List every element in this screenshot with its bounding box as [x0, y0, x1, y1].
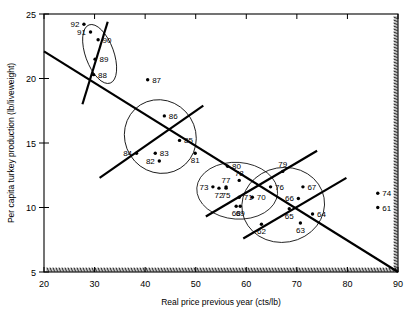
data-point-label: 83	[160, 149, 169, 158]
x-tick-label: 80	[342, 279, 352, 289]
data-point-label: 76	[275, 183, 284, 192]
axis-hatch-band-right	[394, 16, 399, 271]
y-tick-label: 10	[26, 203, 36, 213]
data-point	[376, 206, 379, 209]
data-point-label: 61	[382, 204, 391, 213]
data-point	[376, 192, 379, 195]
data-point	[154, 152, 157, 155]
data-point	[89, 30, 92, 33]
data-point	[163, 114, 166, 117]
data-point	[288, 207, 291, 210]
y-axis-tick-labels: 510152025	[26, 10, 36, 278]
data-point	[301, 185, 304, 188]
data-point	[297, 197, 300, 200]
data-point-label: 62	[257, 227, 266, 236]
y-axis-title: Per capita turkey production (lb/livewei…	[6, 63, 16, 223]
data-point-label: 65	[285, 212, 294, 221]
data-point-label: 74	[382, 189, 391, 198]
data-point-labels: 9291908988878685848382818079787776737275…	[71, 20, 392, 236]
data-point-label: 63	[296, 226, 305, 235]
data-point-label: 85	[184, 136, 193, 145]
data-point-label: 71	[244, 193, 253, 202]
data-point	[178, 139, 181, 142]
data-point	[224, 186, 227, 189]
x-tick-label: 20	[39, 279, 49, 289]
data-point-label: 79	[278, 160, 287, 169]
y-tick-label: 15	[26, 139, 36, 149]
y-tick-label: 5	[31, 268, 36, 278]
data-point	[260, 223, 263, 226]
data-point-label: 67	[307, 183, 316, 192]
data-point-label: 91	[77, 28, 86, 37]
axis-hatch-band	[46, 268, 397, 273]
y-tick-label: 25	[26, 10, 36, 20]
x-tick-label: 70	[292, 279, 302, 289]
data-point	[93, 57, 96, 60]
trend-lines	[44, 22, 398, 272]
data-point-label: 82	[146, 157, 155, 166]
data-point	[269, 185, 272, 188]
cluster-1960s	[236, 161, 331, 249]
data-point	[217, 186, 220, 189]
data-point	[299, 221, 302, 224]
data-point	[239, 205, 242, 208]
data-points	[82, 23, 379, 226]
data-point	[82, 23, 85, 26]
data-point	[234, 205, 237, 208]
data-point-label: 90	[103, 36, 112, 45]
data-point	[281, 170, 284, 173]
x-tick-label: 60	[241, 279, 251, 289]
x-axis-tick-labels: 2030405060708090	[39, 279, 403, 289]
data-point	[158, 159, 161, 162]
data-point-label: 87	[152, 76, 161, 85]
scatter-chart-figure: 2030405060708090 510152025 9291908988878…	[0, 0, 419, 313]
data-point-label: 70	[257, 193, 266, 202]
data-point-label: 77	[222, 176, 231, 185]
data-point-label: 89	[100, 55, 109, 64]
data-point-label: 88	[98, 71, 107, 80]
chart-canvas: 2030405060708090 510152025 9291908988878…	[0, 0, 419, 313]
data-point	[194, 152, 197, 155]
data-point	[96, 38, 99, 41]
data-point	[238, 195, 241, 198]
data-point-label: 78	[235, 169, 244, 178]
overall-negative-trend	[44, 51, 398, 272]
x-axis-title: Real price previous year (cts/lb)	[161, 297, 281, 307]
data-point	[146, 78, 149, 81]
y-tick-label: 20	[26, 74, 36, 84]
data-point-label: 73	[200, 183, 209, 192]
data-point	[311, 212, 314, 215]
x-tick-label: 90	[393, 279, 403, 289]
data-point	[238, 179, 241, 182]
x-tick-label: 30	[90, 279, 100, 289]
data-point	[135, 152, 138, 155]
data-point	[211, 185, 214, 188]
data-point-label: 81	[191, 156, 200, 165]
data-point-label: 84	[123, 149, 132, 158]
x-tick-label: 50	[191, 279, 201, 289]
data-point-label: 69	[236, 209, 245, 218]
data-point	[92, 73, 95, 76]
data-point-label: 66	[285, 194, 294, 203]
data-point-label: 75	[222, 191, 231, 200]
data-point-label: 64	[317, 210, 326, 219]
x-tick-label: 40	[140, 279, 150, 289]
data-point-label: 86	[169, 112, 178, 121]
data-point	[226, 165, 229, 168]
